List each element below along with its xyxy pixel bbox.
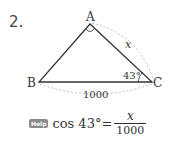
side-ac-label: x	[125, 38, 132, 51]
vertex-c-label: C	[153, 76, 162, 90]
right-angle-mark	[86, 29, 94, 32]
side-bc-label: 1000	[83, 89, 108, 100]
fraction-numerator: x	[127, 110, 134, 123]
help-badge: Help	[29, 119, 48, 128]
hint-formula: Help cos 43° = x 1000	[29, 110, 146, 137]
formula-lhs: cos 43°	[52, 116, 101, 131]
fraction-denominator: 1000	[116, 124, 144, 137]
vertex-b-label: B	[27, 76, 36, 90]
vertex-a-label: A	[85, 10, 95, 24]
fraction: x 1000	[114, 110, 146, 137]
formula-equals: =	[101, 116, 112, 131]
angle-c-label: 43°	[123, 70, 141, 81]
